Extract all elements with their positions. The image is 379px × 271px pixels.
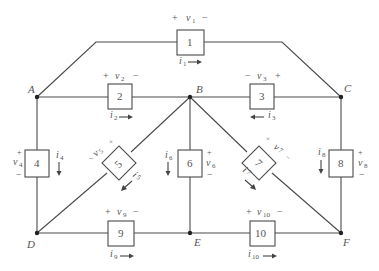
svg-text:+: +: [105, 206, 111, 217]
svg-text:i: i: [318, 146, 321, 157]
svg-text:6: 6: [187, 157, 193, 169]
element-9: 9 + v 9 − i 9: [105, 206, 139, 261]
svg-text:i: i: [56, 149, 59, 160]
node-d-dot: [35, 231, 39, 235]
svg-text:−: −: [245, 70, 251, 81]
svg-text:v: v: [257, 206, 262, 217]
svg-text:−: −: [89, 154, 94, 163]
svg-text:+: +: [207, 148, 212, 157]
node-b-label: B: [196, 83, 203, 95]
svg-text:v: v: [358, 157, 363, 168]
svg-text:9: 9: [118, 227, 124, 239]
node-c-dot: [339, 95, 343, 99]
svg-text:v: v: [186, 12, 191, 23]
svg-text:10: 10: [263, 211, 271, 219]
svg-text:+: +: [275, 70, 281, 81]
svg-text:i: i: [165, 149, 168, 160]
svg-text:i: i: [248, 248, 251, 259]
svg-text:+: +: [172, 12, 178, 23]
svg-text:+: +: [246, 206, 252, 217]
svg-text:+: +: [358, 148, 363, 157]
svg-text:i: i: [110, 248, 113, 259]
svg-text:6: 6: [169, 154, 173, 162]
svg-text:−: −: [133, 206, 139, 217]
svg-text:−: −: [207, 169, 213, 180]
svg-text:2: 2: [121, 75, 125, 83]
svg-text:i: i: [110, 109, 113, 120]
svg-text:1: 1: [187, 36, 193, 48]
wire-b-to-7: [190, 97, 247, 152]
svg-text:3: 3: [272, 114, 276, 122]
svg-text:v: v: [206, 157, 211, 168]
svg-text:3: 3: [263, 75, 267, 83]
node-f-dot: [339, 231, 343, 235]
circuit-diagram: A B C D E F 1 + v 1 − i 1 2 + v 2 − i 2 …: [0, 0, 379, 271]
node-f-label: F: [342, 236, 350, 248]
element-6: 6 i 6 + v 6 −: [165, 148, 216, 180]
svg-text:9: 9: [123, 211, 127, 219]
wire-7-to-f: [272, 173, 341, 233]
svg-text:i: i: [268, 109, 271, 120]
element-3: 3 − v 3 + i 3: [245, 70, 281, 122]
node-b-dot: [188, 95, 192, 99]
wire-5-to-d: [37, 173, 107, 233]
svg-text:1: 1: [183, 60, 187, 68]
svg-text:v: v: [13, 156, 18, 167]
node-e-dot: [188, 231, 192, 235]
element-8: 8 i 8 + v 8 −: [318, 146, 368, 180]
svg-text:−: −: [359, 169, 365, 180]
node-c-label: C: [344, 82, 352, 94]
svg-text:v: v: [257, 70, 262, 81]
svg-text:−: −: [284, 153, 292, 162]
svg-text:i: i: [179, 55, 182, 66]
svg-text:4: 4: [19, 161, 23, 169]
wires: [37, 42, 341, 233]
wire-b-to-5: [131, 97, 190, 152]
svg-text:×: ×: [266, 135, 270, 143]
svg-text:4: 4: [34, 157, 40, 169]
svg-text:10: 10: [255, 227, 267, 239]
svg-text:3: 3: [259, 90, 265, 102]
svg-text:4: 4: [60, 154, 64, 162]
arrow-i7-icon: [245, 180, 253, 187]
svg-text:10: 10: [252, 253, 260, 261]
element-4: 4 + v 4 − i 4: [13, 148, 64, 180]
svg-text:v: v: [117, 206, 122, 217]
svg-text:×: ×: [109, 138, 113, 146]
svg-text:2: 2: [114, 114, 118, 122]
element-5: 5 − v 5 × i 5: [89, 138, 143, 191]
svg-text:+: +: [103, 70, 109, 81]
svg-text:v: v: [115, 70, 120, 81]
svg-text:+: +: [17, 148, 22, 157]
node-a-label: A: [27, 83, 35, 95]
element-1: 1 + v 1 − i 1: [172, 12, 208, 68]
element-2: 2 + v 2 − i 2: [103, 70, 139, 122]
svg-text:9: 9: [114, 253, 118, 261]
node-e-label: E: [193, 236, 201, 248]
svg-text:−: −: [277, 206, 283, 217]
svg-text:−: −: [133, 70, 139, 81]
svg-text:8: 8: [322, 151, 326, 159]
svg-text:8: 8: [338, 157, 344, 169]
arrow-i5-icon: [124, 181, 132, 188]
svg-text:2: 2: [117, 90, 123, 102]
element-7: 7 × v 7 − i 7: [241, 135, 292, 190]
node-a-dot: [35, 95, 39, 99]
svg-text:−: −: [202, 12, 208, 23]
svg-text:1: 1: [192, 17, 196, 25]
svg-text:−: −: [16, 169, 22, 180]
node-d-label: D: [26, 238, 35, 250]
